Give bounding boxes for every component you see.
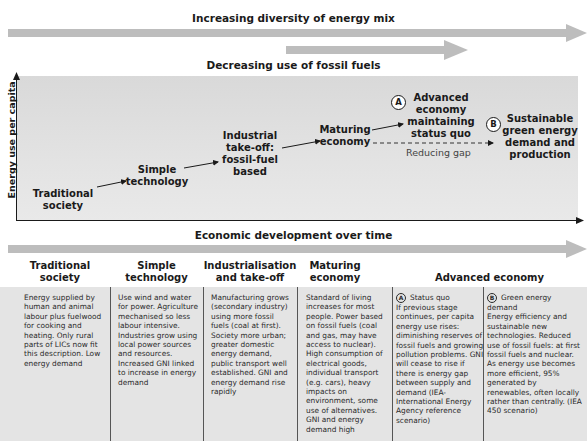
column-divider bbox=[297, 287, 298, 441]
stage-line: based bbox=[215, 166, 285, 178]
stage-advanced-status-quo: Advanced economy maintaining status quo bbox=[404, 92, 478, 140]
header-line: Maturing bbox=[290, 260, 380, 272]
timeline-arrow bbox=[8, 240, 587, 258]
header-line: economy bbox=[290, 272, 380, 284]
stage-line: Simple bbox=[122, 164, 192, 176]
stage-line: production bbox=[500, 149, 580, 161]
stage-traditional-society: Traditional society bbox=[28, 188, 98, 212]
stage-line: maintaining bbox=[404, 116, 478, 128]
stage-line: status quo bbox=[404, 128, 478, 140]
cell-b-text: Energy efficiency and sustainable new te… bbox=[487, 312, 583, 415]
header-line: and take-off bbox=[200, 272, 300, 284]
stage-industrial-take-off: Industrial take-off: fossil-fuel based bbox=[215, 130, 285, 178]
marker-b-small-icon: B bbox=[487, 293, 497, 303]
stage-sustainable-green: Sustainable green energy demand and prod… bbox=[500, 113, 580, 161]
cell-traditional-society: Energy supplied by human and animal labo… bbox=[24, 293, 106, 368]
stage-line: Maturing bbox=[315, 124, 375, 136]
header-line: Industrialisation bbox=[200, 260, 300, 272]
cell-simple-technology: Use wind and water for power. Agricultur… bbox=[118, 293, 202, 387]
marker-b-icon: B bbox=[486, 117, 501, 132]
stage-line: take-off: bbox=[215, 142, 285, 154]
stage-line: Industrial bbox=[215, 130, 285, 142]
cell-a-title-row: AStatus quo bbox=[396, 293, 484, 303]
header-traditional-society: Traditional society bbox=[10, 260, 110, 284]
cell-advanced-green-energy: BGreen energy demand Energy efficiency a… bbox=[487, 293, 583, 416]
stage-line: demand and bbox=[500, 137, 580, 149]
stage-line: technology bbox=[122, 176, 192, 188]
column-divider bbox=[203, 287, 204, 441]
header-industrialisation: Industrialisation and take-off bbox=[200, 260, 300, 284]
stage-line: green energy bbox=[500, 125, 580, 137]
header-line: technology bbox=[110, 272, 203, 284]
header-simple-technology: Simple technology bbox=[110, 260, 203, 284]
column-divider bbox=[392, 287, 393, 441]
header-line: Traditional bbox=[10, 260, 110, 272]
cell-a-text: If previous stage continues, per capita … bbox=[396, 303, 484, 425]
cell-a-title: Status quo bbox=[410, 293, 450, 302]
reducing-gap-label: Reducing gap bbox=[406, 147, 471, 158]
column-divider bbox=[110, 287, 111, 441]
cell-maturing-economy: Standard of living increases for most pe… bbox=[306, 293, 390, 434]
header-advanced-economy: Advanced economy bbox=[392, 272, 587, 284]
marker-a-small-icon: A bbox=[396, 293, 406, 303]
header-line: society bbox=[10, 272, 110, 284]
header-line: Advanced economy bbox=[392, 272, 587, 284]
header-maturing-economy: Maturing economy bbox=[290, 260, 380, 284]
x-axis-arrowhead-icon bbox=[576, 217, 584, 224]
stage-line: economy bbox=[315, 136, 375, 148]
stage-line: Traditional bbox=[28, 188, 98, 200]
cell-b-title-row: BGreen energy demand bbox=[487, 293, 583, 312]
cell-advanced-status-quo: AStatus quo If previous stage continues,… bbox=[396, 293, 484, 425]
y-axis-arrowhead-icon bbox=[13, 72, 20, 80]
stage-line: economy bbox=[404, 104, 478, 116]
stage-line: Advanced bbox=[404, 92, 478, 104]
stage-line: society bbox=[28, 200, 98, 212]
stage-simple-technology: Simple technology bbox=[122, 164, 192, 188]
cell-industrialisation: Manufacturing grows (secondary industry)… bbox=[211, 293, 293, 396]
stage-line: fossil-fuel bbox=[215, 154, 285, 166]
stage-line: Sustainable bbox=[500, 113, 580, 125]
header-line: Simple bbox=[110, 260, 203, 272]
stage-maturing-economy: Maturing economy bbox=[315, 124, 375, 148]
